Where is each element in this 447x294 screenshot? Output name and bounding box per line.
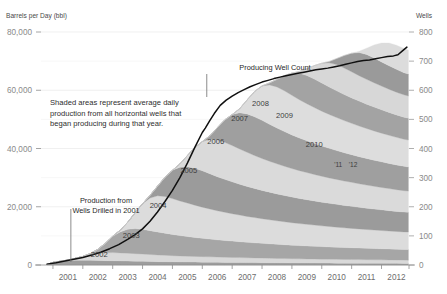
y-tick-label-80000: 80,000: [7, 28, 32, 37]
shaded-areas-note-line-1: Shaded areas represent average daily: [50, 98, 179, 107]
x-tick-label-2007: 2007: [238, 273, 257, 282]
band-label-2008: 2008: [252, 99, 269, 108]
y2-tick-label-700: 700: [419, 57, 433, 66]
x-tick-label-2009: 2009: [298, 273, 317, 282]
band-label-2005: 2005: [180, 166, 197, 175]
shaded-areas-note-line-3: began producing during that year.: [50, 119, 163, 128]
chart-figure: 020,00040,00060,00080,000010020030040050…: [0, 0, 447, 294]
x-tick-label-2008: 2008: [268, 273, 287, 282]
band-label-2006: 2006: [207, 137, 224, 146]
y2-tick-label-600: 600: [419, 86, 433, 95]
band-label-2007: 2007: [231, 114, 248, 123]
x-tick-label-2006: 2006: [208, 273, 227, 282]
y2-tick-label-200: 200: [419, 203, 433, 212]
production-2001-callout-line-2: Wells Drilled in 2001: [72, 206, 139, 215]
x-tick-label-2004: 2004: [148, 273, 167, 282]
stacked-area-chart-svg: 020,00040,00060,00080,000010020030040050…: [0, 0, 447, 294]
production-2001-callout-line-1: Production from: [80, 196, 132, 205]
x-tick-label-2012: 2012: [387, 273, 406, 282]
shaded-areas-note-line-2: production from all horizontal wells tha…: [50, 109, 182, 118]
band-label-y11: '11: [334, 161, 342, 168]
y-tick-label-60000: 60,000: [7, 86, 32, 95]
band-label-y12: '12: [349, 161, 358, 168]
y-tick-label-40000: 40,000: [7, 145, 32, 154]
x-tick-label-2010: 2010: [328, 273, 347, 282]
x-tick-label-2011: 2011: [358, 273, 376, 282]
band-label-2004: 2004: [150, 201, 167, 210]
band-label-2009: 2009: [276, 111, 293, 120]
x-tick-label-2005: 2005: [178, 273, 197, 282]
x-tick-label-2001: 2001: [59, 273, 78, 282]
areas-layer: [47, 43, 408, 265]
y-tick-label-0: 0: [27, 261, 32, 270]
producing-well-count-callout-label: Producing Well Count: [239, 63, 310, 72]
x-tick-label-2002: 2002: [89, 273, 108, 282]
band-label-2003: 2003: [123, 231, 140, 240]
y-tick-label-20000: 20,000: [7, 203, 32, 212]
y2-tick-label-300: 300: [419, 174, 433, 183]
y2-tick-label-800: 800: [419, 28, 433, 37]
band-label-2002: 2002: [91, 250, 108, 259]
y2-tick-label-500: 500: [419, 115, 433, 124]
band-label-2010: 2010: [306, 140, 323, 149]
y2-tick-label-100: 100: [419, 232, 433, 241]
y2-tick-label-0: 0: [419, 261, 424, 270]
x-tick-label-2003: 2003: [119, 273, 138, 282]
y2-tick-label-400: 400: [419, 145, 433, 154]
